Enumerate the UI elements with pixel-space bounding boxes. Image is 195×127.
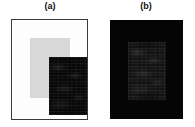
texture-mottle-b <box>128 42 166 100</box>
figure-panel-b <box>110 20 183 119</box>
figure-container: (a) (b) <box>0 0 195 127</box>
texture-mottle-a <box>49 57 87 115</box>
panel-caption-a: (a) <box>30 1 70 12</box>
figure-panel-a <box>11 19 88 120</box>
specimen-image-b <box>128 42 166 100</box>
texture-vertical-a <box>49 57 87 115</box>
texture-vertical-b <box>128 42 166 100</box>
specimen-image-a <box>49 57 87 115</box>
texture-streaks-a <box>49 57 87 115</box>
panel-caption-b: (b) <box>126 1 166 12</box>
texture-streaks-b <box>128 42 166 100</box>
specimen-halo-a <box>30 38 70 98</box>
